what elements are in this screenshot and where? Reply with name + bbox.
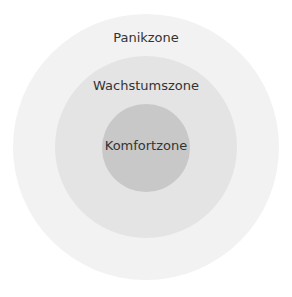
comfort-zone-diagram: Panikzone Wachstumszone Komfortzone	[0, 0, 292, 297]
comfort-zone-label: Komfortzone	[0, 138, 292, 153]
growth-zone-label: Wachstumszone	[0, 78, 292, 93]
panic-zone-label: Panikzone	[0, 30, 292, 45]
